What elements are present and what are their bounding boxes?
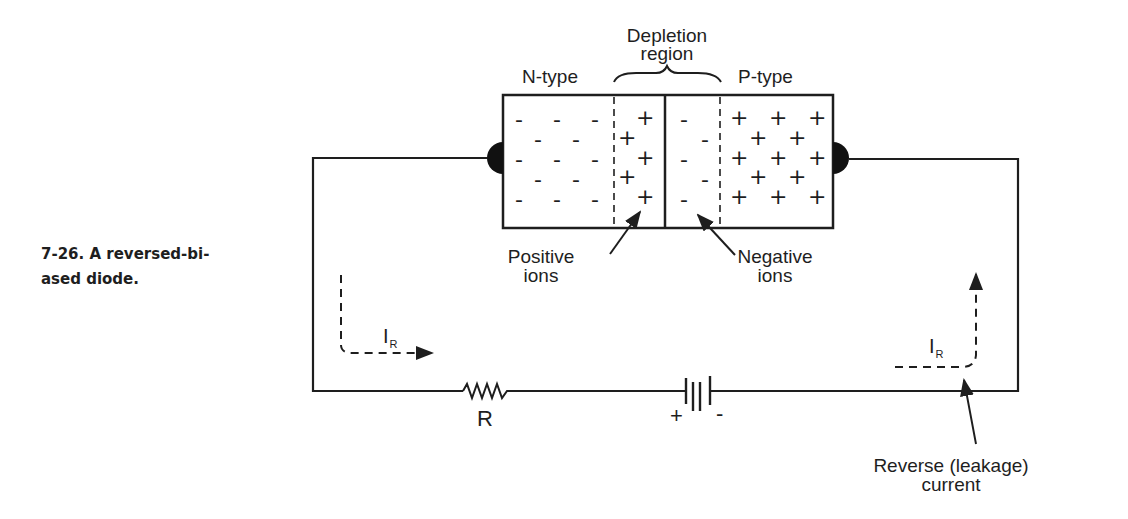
charge-plus: + (808, 184, 826, 209)
charge-plus: + (730, 105, 748, 130)
charge-minus: - (553, 147, 561, 172)
charge-minus: - (680, 187, 688, 212)
caption-line-2: ased diode. (41, 267, 291, 292)
leakage-pointer (964, 380, 976, 444)
charge-minus: - (515, 147, 523, 172)
depletion-region-label: Depletion region (627, 26, 707, 63)
charge-minus: - (591, 107, 599, 132)
charge-minus: - (591, 147, 599, 172)
charge-plus: + (618, 164, 636, 189)
negative-ions-pointer (698, 215, 735, 255)
battery-symbol (686, 376, 710, 411)
charge-plus: + (749, 164, 767, 189)
charge-plus: + (730, 145, 748, 170)
caption-line-1: 7-26. A reversed-bi- (41, 242, 291, 267)
charge-plus: + (769, 184, 787, 209)
charge-minus: - (680, 107, 688, 132)
charge-minus: - (534, 127, 542, 152)
terminal-right (833, 142, 849, 174)
charge-minus: - (534, 167, 542, 192)
charge-minus: - (553, 187, 561, 212)
charge-minus: - (572, 167, 580, 192)
reverse-biased-diode-figure: - - - - - - - - - - - - - + + + + + - - … (0, 0, 1128, 519)
negative-ions-label: Negative ions (738, 247, 813, 285)
charge-minus: - (553, 107, 561, 132)
charge-minus: - (515, 107, 523, 132)
charge-plus: + (808, 145, 826, 170)
current-label-right: IR (929, 335, 944, 360)
positive-ions-label: Positive ions (508, 247, 575, 285)
leakage-current-label: Reverse (leakage) current (873, 456, 1028, 494)
charge-plus: + (749, 125, 767, 150)
p-type-label: P-type (738, 67, 793, 86)
charge-plus: + (730, 184, 748, 209)
current-label-left: IR (383, 325, 398, 350)
charge-minus: - (701, 127, 709, 152)
charge-minus: - (680, 147, 688, 172)
charge-plus: + (636, 184, 654, 209)
charge-minus: - (572, 127, 580, 152)
charge-plus: + (808, 105, 826, 130)
charge-minus: - (515, 187, 523, 212)
n-type-label: N-type (522, 67, 578, 86)
depletion-brace (614, 66, 721, 82)
battery-minus-label: - (716, 404, 723, 423)
charge-minus: - (591, 187, 599, 212)
charge-plus: + (769, 145, 787, 170)
figure-caption: 7-26. A reversed-bi- ased diode. (41, 242, 291, 292)
resistor-symbol (463, 384, 512, 398)
charge-minus: - (701, 167, 709, 192)
charge-plus: + (788, 125, 806, 150)
charge-plus: + (636, 145, 654, 170)
terminal-left (487, 142, 503, 174)
battery-plus-label: + (670, 406, 683, 425)
charge-plus: + (618, 125, 636, 150)
charge-plus: + (769, 105, 787, 130)
charge-plus: + (636, 105, 654, 130)
charge-plus: + (788, 164, 806, 189)
resistor-label: R (477, 409, 493, 428)
